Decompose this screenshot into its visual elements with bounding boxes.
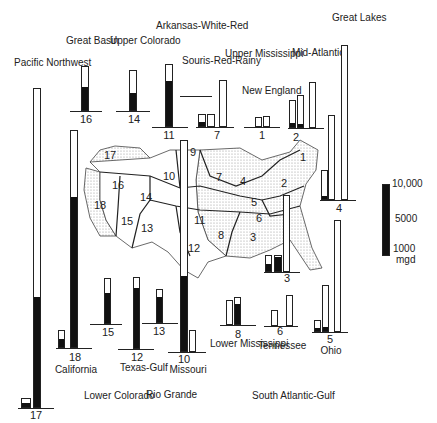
region-name-10: Missouri	[168, 364, 208, 375]
bar-7-I	[207, 114, 215, 127]
bar-8-A	[234, 297, 241, 325]
bar-2-E	[309, 82, 316, 128]
bar-3-A	[274, 255, 282, 272]
region-name-4: Great Lakes	[332, 12, 372, 23]
bar-5-E	[334, 220, 341, 332]
map-label-1: 1	[300, 152, 306, 163]
region-id-11: 11	[161, 130, 177, 141]
legend-unit: mgd	[396, 254, 415, 265]
bar-10-E	[189, 330, 196, 352]
map-label-8: 8	[218, 230, 224, 241]
region-id-6: 6	[274, 326, 286, 337]
bar-2-I	[297, 95, 304, 128]
bar-17-A	[33, 88, 41, 408]
map-label-7: 7	[216, 172, 222, 183]
bar-7-E	[219, 80, 227, 127]
bar-5-I	[322, 285, 329, 332]
region-id-5: 5	[322, 334, 338, 345]
region-id-14: 14	[126, 114, 142, 125]
region-id-4: 4	[331, 203, 347, 214]
region-name-7: Upper Mississippi	[225, 48, 285, 59]
map-label-14: 14	[140, 192, 152, 203]
region-name-16: Great Basin	[66, 35, 106, 46]
bar-3-I	[265, 255, 272, 272]
bar-18-A	[70, 130, 78, 348]
map-label-13: 13	[141, 223, 153, 234]
bar-15-A	[104, 278, 111, 324]
map-label-3: 3	[250, 232, 256, 243]
region-id-17: 17	[28, 410, 44, 421]
bar-1-I	[255, 117, 262, 127]
bar-14-A	[129, 70, 137, 111]
bar-16-A	[81, 66, 89, 111]
bar-12-A	[133, 277, 140, 349]
bar-4-I	[328, 115, 335, 200]
map-label-15: 15	[121, 216, 133, 227]
region-name-15: Lower Colorado	[84, 390, 128, 401]
region-id-15: 15	[101, 327, 115, 338]
bar-2-D	[289, 100, 296, 128]
bar-3-E	[283, 195, 290, 272]
bar-13-A	[156, 289, 163, 323]
map-label-9: 9	[190, 147, 196, 158]
region-id-13: 13	[152, 326, 166, 337]
region-name-12: Texas-Gulf	[120, 362, 154, 373]
bar-4-E	[341, 45, 348, 200]
bar-17-D	[21, 398, 31, 408]
bar-11-A	[165, 64, 173, 127]
map-label-2: 2	[281, 178, 287, 189]
region-name-1: New England	[242, 85, 282, 96]
region-id-3: 3	[282, 273, 292, 284]
map-label-10: 10	[163, 171, 175, 182]
region-name-17: Pacific Northwest	[14, 57, 70, 68]
region-name-3: South Atlantic-Gulf	[252, 390, 316, 401]
region-name-11: Arkansas-White-Red	[156, 20, 206, 31]
bar-1-A	[263, 116, 270, 127]
map-label-12: 12	[188, 243, 200, 254]
bar-6-E	[286, 295, 293, 326]
region-name-2: Mid-Atlantic	[292, 47, 342, 58]
region-id-1: 1	[254, 130, 270, 141]
map-label-6: 6	[256, 213, 262, 224]
map-label-18: 18	[94, 200, 106, 211]
bar-6-I	[271, 310, 278, 326]
map-label-17: 17	[104, 150, 116, 161]
region-id-7: 7	[209, 130, 225, 141]
region-name-8: Lower Mississippi	[210, 338, 270, 349]
region-name-5: Ohio	[318, 345, 344, 356]
region-id-18: 18	[68, 352, 82, 363]
legend-1000: 1000	[393, 243, 415, 254]
bar-18-D	[58, 330, 65, 348]
region-id-2: 2	[288, 132, 304, 143]
region-id-16: 16	[78, 114, 94, 125]
region-name-14: Upper Colorado	[110, 35, 154, 46]
map-label-16: 16	[112, 180, 124, 191]
legend-5000: 5000	[395, 213, 417, 224]
legend-10000: 10,000	[392, 178, 423, 189]
bar-5-D	[314, 320, 321, 332]
region-name-18: California	[54, 364, 98, 375]
region-name-9: Souris-Red-Rainy	[182, 55, 222, 66]
legend-bar	[382, 184, 390, 256]
map-label-11: 11	[194, 215, 205, 226]
bar-10-A	[180, 140, 188, 352]
bar-7-D	[198, 114, 206, 127]
map-label-4: 4	[240, 176, 246, 187]
bar-4-D	[321, 170, 328, 200]
bar-8-I	[226, 300, 233, 325]
map-label-5: 5	[251, 197, 257, 208]
